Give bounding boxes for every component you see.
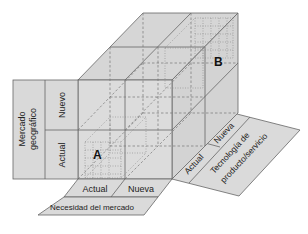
- horizontal-axis-title: Necesidad del mercado: [50, 203, 135, 212]
- business-definition-cube-diagram: Mercado geográfico Nuevo Actual Actual N…: [0, 0, 308, 234]
- horizontal-level-left: Actual: [82, 184, 107, 194]
- vertical-axis-title-line1: Mercado: [17, 111, 27, 146]
- vertical-level-bottom: Actual: [57, 142, 67, 167]
- vertical-level-top: Nuevo: [57, 92, 67, 118]
- vertical-axis-title-line2: geográfico: [28, 108, 38, 150]
- horizontal-level-right: Nueva: [128, 184, 154, 194]
- point-b-label: B: [214, 55, 223, 69]
- point-a-label: A: [93, 148, 102, 162]
